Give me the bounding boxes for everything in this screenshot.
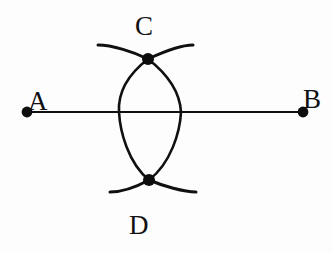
arc-lens-left <box>119 59 149 180</box>
geometry-figure: A B C D <box>0 0 332 253</box>
point-label-b: B <box>303 86 321 113</box>
figure-canvas <box>0 0 332 253</box>
arc-lens-right <box>148 59 181 180</box>
point-c-dot <box>142 53 154 65</box>
point-label-c: C <box>135 13 153 40</box>
point-label-d: D <box>129 212 149 239</box>
point-label-a: A <box>28 88 48 115</box>
point-d-dot <box>143 174 155 186</box>
